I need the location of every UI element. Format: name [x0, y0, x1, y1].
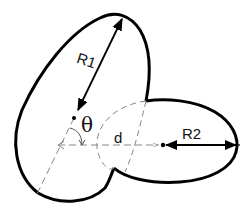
lobe-1-center-dot — [72, 116, 76, 120]
two-lobe-geometry-diagram: R1 R2 θ d — [0, 0, 251, 211]
lobe-1-outline — [16, 14, 149, 201]
r1-label: R1 — [75, 49, 99, 71]
lobe-2-outline — [114, 100, 237, 183]
r2-label: R2 — [182, 125, 201, 142]
d-label: d — [114, 129, 122, 146]
theta-label: θ — [81, 113, 93, 137]
lobe-1-axis-dashed — [36, 118, 74, 196]
lobe-2-center-dot — [161, 143, 165, 147]
overlap-arc-dashed-2 — [125, 101, 146, 172]
